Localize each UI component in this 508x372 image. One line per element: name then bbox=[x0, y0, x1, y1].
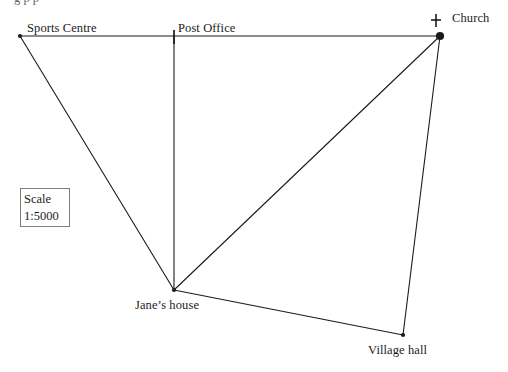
scale-legend-ratio: 1:5000 bbox=[24, 208, 69, 225]
scale-legend-title: Scale bbox=[24, 191, 69, 208]
church-cross-icon bbox=[431, 14, 441, 27]
sports-centre-marker bbox=[18, 34, 22, 38]
label-post-office: Post Office bbox=[178, 22, 235, 35]
route-church-to-village-hall bbox=[403, 36, 440, 335]
label-church: Church bbox=[452, 12, 489, 25]
label-janes-house: Jane’s house bbox=[135, 299, 199, 312]
route-church-to-janes-house bbox=[174, 36, 440, 290]
label-sports-centre: Sports Centre bbox=[27, 22, 97, 35]
scale-legend-box: Scale 1:5000 bbox=[20, 188, 70, 227]
janes-house-marker bbox=[172, 288, 176, 292]
church-marker bbox=[436, 32, 444, 40]
map-figure: g p p Sports Centre Post Office Chu bbox=[0, 0, 508, 372]
label-village-hall: Village hall bbox=[368, 344, 427, 357]
route-sports-centre-to-janes-house bbox=[20, 36, 174, 290]
village-hall-marker bbox=[401, 333, 405, 337]
route-janes-house-to-village-hall bbox=[174, 290, 403, 335]
map-canvas bbox=[0, 0, 508, 372]
